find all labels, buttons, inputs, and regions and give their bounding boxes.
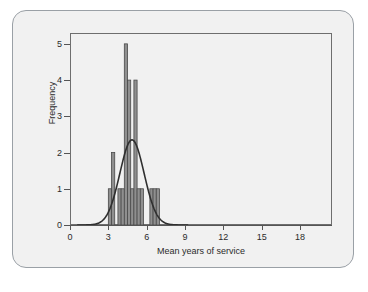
x-axis-tick (223, 225, 224, 230)
x-axis-tick-label: 12 (218, 232, 228, 242)
x-axis-tick-label: 9 (183, 232, 188, 242)
histogram-plot-area (70, 33, 332, 225)
histogram-bar (140, 189, 143, 225)
histogram-bar (124, 44, 127, 225)
x-axis-tick-label: 6 (144, 232, 149, 242)
x-axis-tick-label: 18 (295, 232, 305, 242)
y-axis-tick-label: 1 (48, 184, 62, 194)
histogram-svg (70, 33, 332, 225)
x-axis-title: Mean years of service (70, 246, 332, 256)
y-axis-title: Frequency (47, 82, 57, 125)
x-axis-tick-label: 3 (106, 232, 111, 242)
histogram-bar (121, 189, 124, 225)
x-axis-tick (300, 225, 301, 230)
y-axis-tick-label: 0 (48, 220, 62, 230)
histogram-bar (131, 189, 134, 225)
histogram-bar (112, 153, 115, 225)
histogram-bar (118, 189, 121, 225)
x-axis-tick (70, 225, 71, 230)
histogram-bar (128, 80, 131, 225)
x-axis-tick (262, 225, 263, 230)
x-axis-tick (108, 225, 109, 230)
histogram-bar (137, 189, 140, 225)
x-axis-tick (185, 225, 186, 230)
x-axis-tick-label: 0 (67, 232, 72, 242)
histogram-bar (134, 80, 137, 225)
y-axis-tick-label: 5 (48, 39, 62, 49)
x-axis-tick (147, 225, 148, 230)
y-axis-tick-label: 2 (48, 148, 62, 158)
histogram-bar (156, 189, 159, 225)
y-axis-tick-labels: 012345 (44, 0, 62, 292)
x-axis-tick-label: 15 (257, 232, 267, 242)
